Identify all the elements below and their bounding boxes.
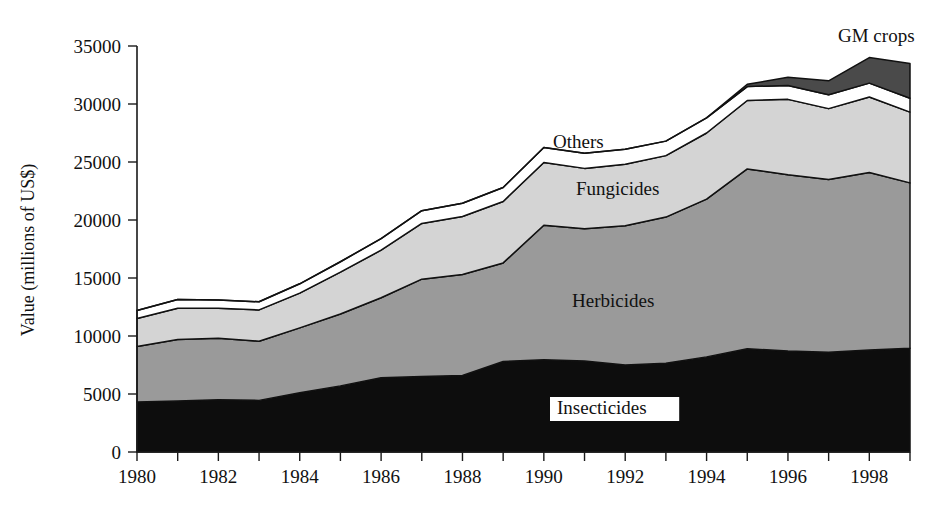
y-tick-label: 20000: [74, 210, 122, 231]
chart-canvas: 05000100001500020000250003000035000 1980…: [0, 0, 938, 515]
x-tick-label: 1994: [688, 466, 727, 487]
x-tick-label: 1992: [606, 466, 644, 487]
series-label-others: Others: [553, 131, 604, 152]
x-tick-label: 1988: [443, 466, 481, 487]
x-tick-label: 1986: [362, 466, 400, 487]
y-tick-label: 35000: [74, 36, 122, 57]
series-label-fungicides: Fungicides: [576, 178, 659, 199]
y-axis-title: Value (millions of US$): [18, 164, 39, 337]
x-tick-label: 1998: [850, 466, 888, 487]
x-axis-tick-labels: 1980198219841986198819901992199419961998: [118, 466, 888, 487]
series-label-herbicides: Herbicides: [572, 290, 654, 311]
y-axis-ticks: [128, 46, 137, 452]
y-tick-label: 15000: [74, 268, 122, 289]
y-axis-tick-labels: 05000100001500020000250003000035000: [74, 36, 122, 463]
x-tick-label: 1980: [118, 466, 156, 487]
y-tick-label: 25000: [74, 152, 122, 173]
y-tick-label: 0: [112, 442, 122, 463]
pesticide-market-area-chart: 05000100001500020000250003000035000 1980…: [0, 0, 938, 515]
x-axis-ticks: [137, 452, 910, 461]
series-label-gm-crops: GM crops: [838, 25, 915, 46]
x-tick-label: 1982: [199, 466, 237, 487]
series-label-insecticides: Insecticides: [557, 397, 647, 418]
x-tick-label: 1996: [769, 466, 807, 487]
x-tick-label: 1990: [525, 466, 563, 487]
y-tick-label: 30000: [74, 94, 122, 115]
y-tick-label: 5000: [83, 384, 121, 405]
x-tick-label: 1984: [281, 466, 320, 487]
y-tick-label: 10000: [74, 326, 122, 347]
stacked-area-bands: [137, 58, 910, 452]
